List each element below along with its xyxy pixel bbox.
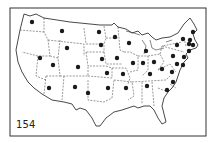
state-dot-nc — [171, 80, 175, 84]
state-dot-md — [175, 62, 179, 66]
state-dot-tn — [145, 84, 149, 88]
state-dot-ar — [124, 86, 128, 90]
state-dot-in — [141, 61, 145, 65]
state-boundaries — [20, 18, 192, 106]
state-dot-mt — [60, 29, 64, 33]
state-dot-de — [181, 63, 185, 67]
state-dot-ia — [115, 56, 119, 60]
state-dot-vt — [181, 37, 185, 41]
state-dot-ok — [106, 86, 110, 90]
state-dot-ri — [191, 43, 195, 47]
state-dot-pa — [171, 54, 175, 58]
state-dot-il — [131, 61, 135, 65]
state-dot-mn — [113, 35, 117, 39]
state-dot-tx — [86, 91, 90, 95]
state-dot-nm — [73, 85, 77, 89]
state-dot-wi — [127, 41, 131, 45]
state-dot-wv — [160, 67, 164, 71]
state-dot-nh — [187, 42, 191, 46]
state-dot-ct — [187, 49, 191, 53]
state-dot-ky — [148, 72, 152, 76]
figure-number-label: 154 — [16, 119, 36, 130]
state-dot-ut — [51, 63, 55, 67]
state-dot-az — [47, 86, 51, 90]
state-dot-mo — [121, 72, 125, 76]
state-dot-nv — [38, 56, 42, 60]
state-dot-me — [191, 30, 195, 34]
state-dot-ks — [105, 71, 109, 75]
state-dot-sd — [99, 43, 103, 47]
state-dots — [30, 20, 195, 95]
state-dot-va — [170, 70, 174, 74]
state-dot-wa — [30, 20, 34, 24]
state-dot-oh — [152, 60, 156, 64]
state-dot-sc — [165, 88, 169, 92]
state-dot-ne — [100, 57, 104, 61]
state-dot-ma — [188, 38, 192, 42]
us-outline — [16, 14, 198, 126]
state-dot-co — [76, 65, 80, 69]
state-dot-ny — [175, 43, 179, 47]
state-dot-wy — [65, 46, 69, 50]
state-dot-nj — [182, 55, 186, 59]
state-dot-mi — [144, 49, 148, 53]
state-dot-nd — [97, 30, 101, 34]
